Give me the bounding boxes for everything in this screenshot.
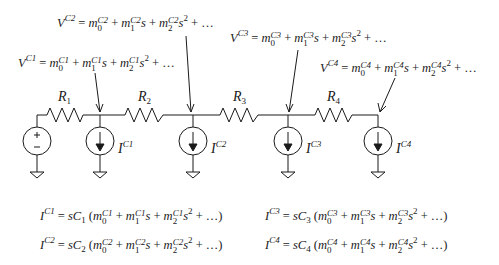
leader-arrow-vc1 [95, 73, 103, 112]
leader-arrow-vc3 [286, 50, 298, 112]
equation-ic2: IC2 = sC2 (mC20 + mC21s + mC22s2 + …) [40, 236, 222, 255]
equation-ic1: IC1 = sC1 (mC10 + mC11s + mC12s2 + …) [40, 207, 222, 226]
equation-vc3: VC3 = mC30 + mC31s + mC32s2 + … [230, 29, 387, 48]
equation-vc1: VC1 = mC10 + mC11s + mC12s2 + … [18, 54, 175, 73]
current-label-ic1: IC1 [118, 140, 133, 156]
resistor-label-r3: R3 [233, 90, 246, 106]
resistor-r1 [47, 108, 100, 122]
resistor-r2 [100, 108, 193, 122]
current-label-ic2: IC2 [211, 140, 226, 156]
equation-vc4: VC4 = mC40 + mC41s + mC42s2 + … [320, 59, 477, 78]
resistor-r4 [288, 108, 378, 122]
current-source-ic4 [364, 115, 392, 178]
current-source-ic3 [274, 115, 302, 178]
resistor-label-r2: R2 [138, 90, 151, 106]
voltage-source [23, 115, 51, 178]
current-label-ic4: IC4 [396, 140, 411, 156]
leader-arrow-vc4 [378, 78, 395, 112]
leader-arrow-vc2 [186, 36, 194, 112]
current-source-ic2 [179, 115, 207, 178]
equation-ic4: IC4 = sC4 (mC40 + mC41s + mC42s2 + …) [265, 236, 447, 255]
resistor-r3 [193, 108, 288, 122]
resistor-label-r1: R1 [58, 90, 71, 106]
resistor-label-r4: R4 [327, 90, 340, 106]
circuit-diagram: R1 R2 R3 R4 IC1 IC2 IC3 IC4 VC1 = mC10 +… [0, 0, 499, 265]
equation-ic3: IC3 = sC3 (mC30 + mC31s + mC32s2 + …) [265, 207, 447, 226]
equation-vc2: VC2 = mC20 + mC21s + mC22s2 + … [57, 14, 214, 33]
current-label-ic3: IC3 [306, 140, 321, 156]
current-source-ic1 [86, 115, 114, 178]
